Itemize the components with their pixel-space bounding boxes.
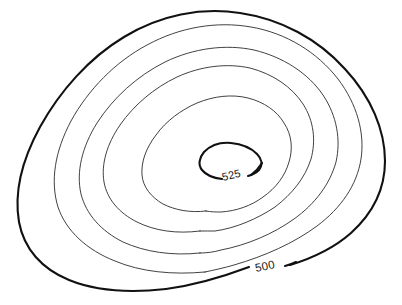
contour-label-525: 525 <box>221 167 242 183</box>
contour-line-ring-2 <box>79 47 338 254</box>
contour-line-ring-4 <box>142 96 291 212</box>
contour-ring-500 <box>18 11 385 291</box>
contour-label-525-group: 525 <box>221 167 242 183</box>
contour-label-500-group: 500 <box>254 258 276 274</box>
contour-label-500: 500 <box>254 258 276 274</box>
contour-line-500 <box>18 11 385 291</box>
contour-map-canvas: 500 525 <box>0 0 402 305</box>
contour-map-figure: 500 525 <box>0 0 402 305</box>
